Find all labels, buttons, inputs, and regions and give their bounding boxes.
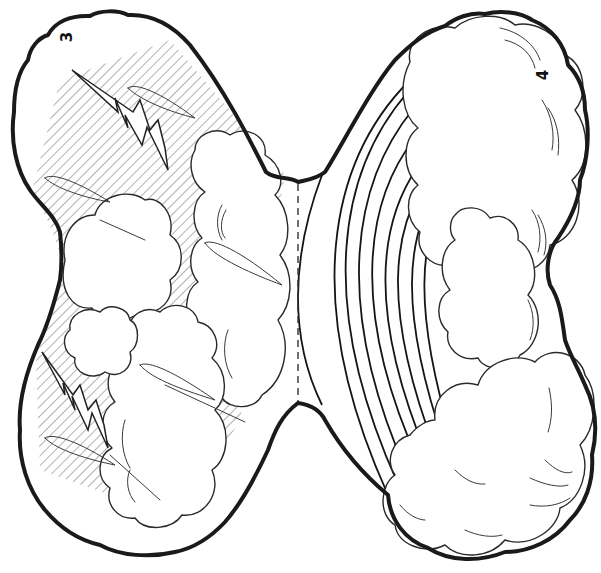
cloud-small-left: [65, 307, 138, 376]
panel-number-right: 4: [534, 70, 552, 80]
coloring-page-artwork: [0, 0, 601, 573]
storm-panel: [30, 40, 290, 527]
cloud-lower-right: [383, 353, 594, 555]
panel-number-left: 3: [58, 32, 76, 42]
